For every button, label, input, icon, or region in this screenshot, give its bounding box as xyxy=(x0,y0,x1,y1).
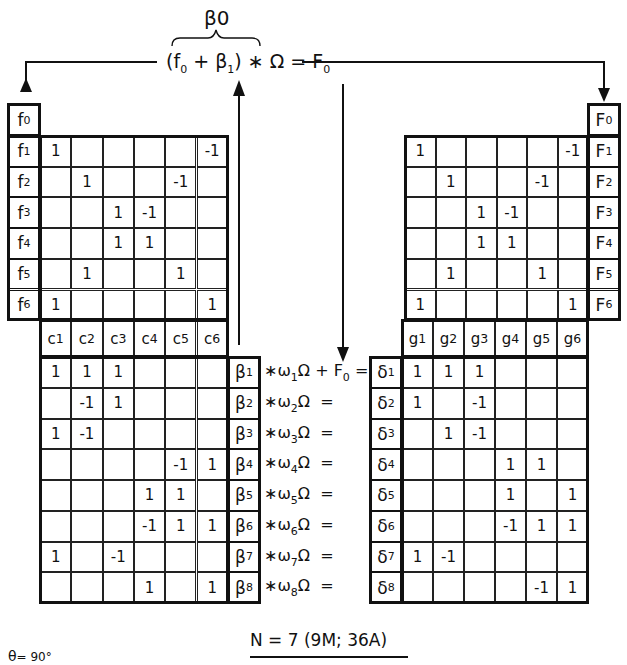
matrix-cell xyxy=(165,388,196,419)
matrix-cell xyxy=(558,228,589,259)
matrix-cell xyxy=(557,449,588,480)
matrix-cell: 1 xyxy=(495,480,526,511)
matrix-cell: 1 xyxy=(526,449,557,480)
matrix-cell xyxy=(40,167,71,198)
matrix-cell: 1 xyxy=(497,228,528,259)
matrix-cell: 1 xyxy=(402,388,433,419)
matrix-cell xyxy=(134,419,165,450)
matrix-cell: 1 xyxy=(402,542,433,573)
matrix-cell xyxy=(497,167,528,198)
matrix-cell xyxy=(103,167,134,198)
f-row-label: f1 xyxy=(8,136,40,167)
matrix-cell xyxy=(71,228,102,259)
matrix-cell xyxy=(197,228,228,259)
matrix-cell xyxy=(165,357,196,388)
matrix-cell: 1 xyxy=(464,357,495,388)
matrix-cell xyxy=(197,480,228,511)
matrix-cell xyxy=(464,511,495,542)
matrix-cell xyxy=(165,290,196,321)
matrix-cell: 1 xyxy=(527,259,558,290)
matrix-cell xyxy=(497,290,528,321)
matrix-cell xyxy=(197,388,228,419)
matrix-cell xyxy=(433,388,464,419)
matrix-cell xyxy=(558,167,589,198)
matrix-cell xyxy=(134,259,165,290)
matrix-cell xyxy=(436,290,467,321)
matrix-cell xyxy=(526,480,557,511)
matrix-cell: -1 xyxy=(464,388,495,419)
matrix-cell xyxy=(165,542,196,573)
omega-equation: ∗ω5Ω = xyxy=(264,484,368,515)
g-col-label: g3 xyxy=(464,320,495,357)
omega-equation: ∗ω8Ω = xyxy=(264,576,368,607)
matrix-cell xyxy=(103,259,134,290)
matrix-cell: 1 xyxy=(134,572,165,603)
matrix-cell: -1 xyxy=(165,167,196,198)
matrix-cell xyxy=(103,136,134,167)
matrix-cell xyxy=(526,357,557,388)
matrix-cell xyxy=(103,290,134,321)
matrix-cell: 1 xyxy=(558,290,589,321)
matrix-cell: 1 xyxy=(433,419,464,450)
matrix-cell: -1 xyxy=(103,542,134,573)
matrix-cell xyxy=(197,197,228,228)
matrix-cell: 1 xyxy=(436,167,467,198)
matrix-cell xyxy=(495,419,526,450)
matrix-cell xyxy=(527,197,558,228)
f0-label: f0 xyxy=(8,104,40,136)
matrix-cell: 1 xyxy=(197,290,228,321)
matrix-cell xyxy=(495,388,526,419)
matrix-cell xyxy=(495,542,526,573)
matrix-cell: 1 xyxy=(402,357,433,388)
matrix-cell xyxy=(103,419,134,450)
g-col-label: g4 xyxy=(495,320,526,357)
matrix-cell: 1 xyxy=(197,511,228,542)
matrix-cell xyxy=(405,197,436,228)
matrix-cell xyxy=(436,136,467,167)
matrix-cell: -1 xyxy=(71,419,102,450)
matrix-cell xyxy=(557,388,588,419)
delta-row-label: δ1 xyxy=(370,357,402,388)
matrix-cell xyxy=(165,419,196,450)
omega-equation: ∗ω7Ω = xyxy=(264,546,368,577)
matrix-cell xyxy=(71,449,102,480)
matrix-cell xyxy=(40,388,71,419)
matrix-cell xyxy=(526,388,557,419)
matrix-cell xyxy=(103,572,134,603)
F-row-label: F3 xyxy=(588,197,620,228)
matrix-cell xyxy=(433,449,464,480)
matrix-cell xyxy=(71,511,102,542)
beta-row-label: β3 xyxy=(228,419,260,450)
matrix-cell xyxy=(402,572,433,603)
delta-row-label: δ5 xyxy=(370,480,402,511)
matrix-cell: -1 xyxy=(497,197,528,228)
matrix-cell: -1 xyxy=(464,419,495,450)
matrix-cell xyxy=(71,542,102,573)
matrix-cell xyxy=(466,167,497,198)
matrix-cell xyxy=(134,542,165,573)
matrix-cell xyxy=(466,136,497,167)
matrix-cell xyxy=(497,259,528,290)
matrix-cell xyxy=(558,197,589,228)
beta-row-label: β7 xyxy=(228,542,260,573)
g-col-label: g1 xyxy=(402,320,433,357)
matrix-cell xyxy=(71,572,102,603)
matrix-cell: 1 xyxy=(103,228,134,259)
operation-count: N = 7 (9M; 36A) xyxy=(250,630,387,650)
omega-equation: ∗ω4Ω = xyxy=(264,453,368,484)
matrix-cell: 1 xyxy=(71,259,102,290)
matrix-cell: 1 xyxy=(103,357,134,388)
matrix-cell xyxy=(527,228,558,259)
matrix-cell xyxy=(71,290,102,321)
matrix-cell xyxy=(197,167,228,198)
matrix-cell: 1 xyxy=(466,228,497,259)
matrix-cell xyxy=(165,228,196,259)
delta-row-label: δ4 xyxy=(370,449,402,480)
matrix-cell: -1 xyxy=(558,136,589,167)
omega-equation: ∗ω3Ω = xyxy=(264,423,368,454)
matrix-cell xyxy=(134,167,165,198)
matrix-cell xyxy=(433,511,464,542)
matrix-cell xyxy=(197,357,228,388)
matrix-cell xyxy=(495,357,526,388)
matrix-cell xyxy=(103,511,134,542)
